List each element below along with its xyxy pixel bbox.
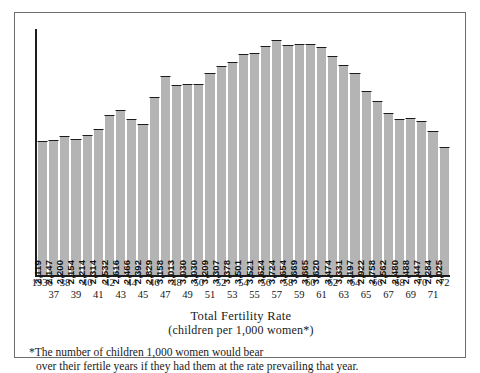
x-tick: 53: [227, 277, 238, 303]
bar: 3,030: [193, 84, 204, 275]
bar: 3,620: [316, 47, 327, 275]
x-tick-label: 39: [71, 289, 82, 300]
bar: 2,154: [70, 139, 81, 275]
footnote: *The number of children 1,000 women woul…: [29, 345, 459, 373]
x-tick: 41: [93, 277, 104, 303]
x-tick: 72: [439, 277, 450, 303]
bar: 2,466: [126, 119, 137, 275]
x-tick: 37: [48, 277, 59, 303]
x-tick-label: 42: [104, 277, 115, 288]
x-tick: 70: [416, 277, 427, 303]
chart-subtitle: (children per 1,000 women*): [15, 323, 467, 337]
x-tick-label: 43: [115, 289, 126, 300]
x-tick-label: 45: [138, 289, 149, 300]
bar: 3,654: [282, 45, 293, 275]
x-tick: 44: [126, 277, 137, 303]
x-tick: 71: [427, 277, 438, 303]
bar: 2,480: [394, 119, 405, 275]
x-tick-label: 47: [160, 289, 171, 300]
x-tick: 40: [82, 277, 93, 303]
x-tick: 66: [372, 277, 383, 303]
x-tick: 68: [394, 277, 405, 303]
x-axis-tick-labels: 1936373839404142434445464748495051525354…: [37, 277, 450, 303]
bar: 3,378: [227, 62, 238, 275]
x-tick-label: 54: [238, 277, 249, 288]
x-tick: 1936: [37, 277, 48, 303]
chart-title-line1: Total Fertility Rate: [15, 309, 467, 323]
chart-frame: 2,1192,1472,2002,1542,2142,3142,5322,616…: [14, 12, 466, 358]
x-tick-label: 53: [227, 289, 238, 300]
x-tick: 43: [115, 277, 126, 303]
x-tick-label: 41: [93, 289, 104, 300]
x-tick: 45: [137, 277, 148, 303]
bar: 2,025: [439, 147, 450, 275]
x-tick-label: 63: [339, 289, 350, 300]
x-tick-label: 62: [327, 277, 338, 288]
bar: 3,669: [294, 44, 305, 275]
bar-series: 2,1192,1472,2002,1542,2142,3142,5322,616…: [37, 29, 450, 275]
x-tick: 58: [282, 277, 293, 303]
x-tick: 49: [182, 277, 193, 303]
x-tick: 62: [327, 277, 338, 303]
x-tick-label: 67: [383, 289, 394, 300]
x-tick-label: 59: [294, 289, 305, 300]
x-tick-label: 70: [417, 277, 428, 288]
footnote-line-2: over their fertile years if they had the…: [29, 359, 459, 373]
x-tick: 50: [193, 277, 204, 303]
bar: 2,922: [361, 91, 372, 275]
x-tick-label: 49: [182, 289, 193, 300]
plot-area: 2,1192,1472,2002,1542,2142,3142,5322,616…: [35, 29, 450, 275]
x-tick-label: 65: [361, 289, 372, 300]
x-tick: 47: [160, 277, 171, 303]
x-tick-label: 68: [394, 277, 405, 288]
x-tick-label: 37: [48, 289, 59, 300]
x-tick-label: 66: [372, 277, 383, 288]
bar: 2,214: [82, 135, 93, 275]
bar: 3,521: [249, 53, 260, 275]
x-tick-label: 58: [283, 277, 294, 288]
x-tick: 67: [383, 277, 394, 303]
x-tick-label: 38: [60, 277, 71, 288]
bar: 2,488: [405, 118, 416, 275]
x-tick-label: 55: [249, 289, 260, 300]
x-tick: 56: [260, 277, 271, 303]
bar: 3,158: [160, 76, 171, 275]
x-tick-label: 48: [171, 277, 182, 288]
x-tick: 39: [70, 277, 81, 303]
x-tick: 57: [271, 277, 282, 303]
bar: 2,119: [37, 141, 48, 275]
x-tick: 46: [149, 277, 160, 303]
x-tick: 69: [405, 277, 416, 303]
x-tick: 60: [305, 277, 316, 303]
bar: 3,474: [327, 56, 338, 275]
x-tick: 63: [338, 277, 349, 303]
x-tick-label: 64: [350, 277, 361, 288]
x-tick: 38: [59, 277, 70, 303]
bar: 2,616: [115, 110, 126, 275]
x-tick: 55: [249, 277, 260, 303]
footnote-line-1: *The number of children 1,000 women woul…: [29, 345, 459, 359]
bar: 2,284: [427, 131, 438, 275]
x-tick: 51: [204, 277, 215, 303]
x-tick-label: 60: [305, 277, 316, 288]
x-tick: 65: [361, 277, 372, 303]
bar: 3,030: [182, 84, 193, 275]
x-tick-label: 56: [260, 277, 271, 288]
x-tick: 64: [349, 277, 360, 303]
x-tick: 52: [216, 277, 227, 303]
x-tick: 61: [316, 277, 327, 303]
bar: 2,532: [104, 115, 115, 275]
x-tick: 59: [294, 277, 305, 303]
bar: 3,665: [305, 44, 316, 275]
x-tick: 42: [104, 277, 115, 303]
x-tick-label: 51: [205, 289, 216, 300]
x-tick-label: 57: [272, 289, 283, 300]
x-tick-label: 50: [194, 277, 205, 288]
x-tick: 48: [171, 277, 182, 303]
bar: 3,197: [349, 73, 360, 275]
x-tick-label: 71: [428, 289, 439, 300]
x-tick: 54: [238, 277, 249, 303]
x-tick-label: 44: [127, 277, 138, 288]
x-tick-label: 40: [82, 277, 93, 288]
bar: 3,307: [216, 66, 227, 275]
